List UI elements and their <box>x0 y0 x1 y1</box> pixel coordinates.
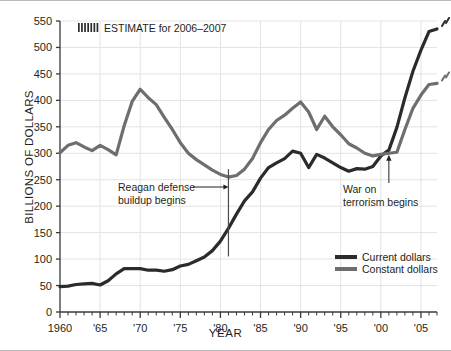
x-tick-label-1990: '90 <box>293 322 307 334</box>
y-tick-label-150: 150 <box>34 227 52 239</box>
war-annotation-line1: War on <box>343 183 377 195</box>
estimate-hatch-bar-1 <box>81 23 83 32</box>
estimate-tick-constant-dollars-0 <box>442 75 445 80</box>
x-tick-label-1975: '75 <box>173 322 187 334</box>
x-tick-label-1970: '70 <box>133 322 147 334</box>
y-tick-label-400: 400 <box>34 94 52 106</box>
estimate-hatch-bar-5 <box>94 23 96 32</box>
chart-figure: BILLIONS OF DOLLARS YEAR 050100150200250… <box>0 0 451 351</box>
legend: Current dollarsConstant dollars <box>335 251 438 275</box>
estimate-end-marks <box>442 18 449 80</box>
estimate-hatch-bar-3 <box>87 23 89 32</box>
legend-label-constant: Constant dollars <box>362 263 438 275</box>
y-tick-label-550: 550 <box>34 15 52 27</box>
x-tick-label-1980: '80 <box>213 322 227 334</box>
y-tick-label-100: 100 <box>34 253 52 265</box>
reagan-annotation-arrow-head <box>223 184 228 189</box>
x-axis-ticks: 1960'65'70'75'80'85'90'95'00'05 <box>48 312 437 334</box>
estimate-tick-current-dollars-1 <box>446 18 449 23</box>
war-annotation-arrow-head <box>386 155 391 161</box>
y-tick-label-200: 200 <box>34 200 52 212</box>
y-axis-ticks: 050100150200250300350400450500550 <box>34 15 60 318</box>
x-tick-label-1960: 1960 <box>48 322 72 334</box>
y-tick-label-500: 500 <box>34 41 52 53</box>
y-tick-label-300: 300 <box>34 147 52 159</box>
estimate-tick-current-dollars-0 <box>442 21 445 26</box>
reagan-annotation-line2: buildup begins <box>118 194 186 206</box>
y-tick-label-250: 250 <box>34 174 52 186</box>
legend-label-current: Current dollars <box>362 251 431 263</box>
estimate-hatch-bar-4 <box>90 23 92 32</box>
estimate-tick-constant-dollars-1 <box>446 72 449 77</box>
y-tick-label-0: 0 <box>46 306 52 318</box>
estimate-hatch-bar-0 <box>78 23 80 32</box>
x-tick-label-1965: '65 <box>93 322 107 334</box>
y-tick-label-450: 450 <box>34 68 52 80</box>
estimate-hatch-bar-2 <box>84 23 86 32</box>
x-tick-label-1995: '95 <box>334 322 348 334</box>
estimate-note-label: ESTIMATE for 2006–2007 <box>104 22 227 34</box>
defense-spending-chart: 050100150200250300350400450500550 1960'6… <box>0 1 451 351</box>
x-tick-label-1985: '85 <box>253 322 267 334</box>
reagan-annotation-line1: Reagan defense <box>118 181 195 193</box>
war-annotation-line2: terrorism begins <box>343 196 418 208</box>
x-tick-label-2005: '05 <box>414 322 428 334</box>
annotations: ESTIMATE for 2006–2007Reagan defensebuil… <box>78 22 418 257</box>
x-tick-label-2000: '00 <box>374 322 388 334</box>
y-tick-label-350: 350 <box>34 121 52 133</box>
y-tick-label-50: 50 <box>40 280 52 292</box>
estimate-hatch-bar-6 <box>97 23 99 32</box>
